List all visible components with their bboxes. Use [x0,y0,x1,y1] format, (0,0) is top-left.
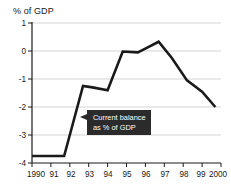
ytick-label-neg3: -3 [19,131,27,140]
xtick-label-95: 95 [122,170,132,179]
callout-line-2: as % of GDP [93,123,146,133]
x-axis-ticks: 1990 91 92 93 94 95 96 97 98 99 2000 [27,163,228,179]
xtick-label-97: 97 [160,170,170,179]
series-callout: Current balance as % of GDP [87,110,151,135]
y-axis-ticks: 1 0 -1 -2 -3 -4 [19,19,32,168]
callout-line-1: Current balance [93,113,146,123]
ytick-label-neg1: -1 [19,75,27,84]
ytick-label-0: 0 [21,47,26,56]
callout-arrow-icon [80,114,87,120]
xtick-label-96: 96 [141,170,151,179]
xtick-label-1990: 1990 [27,170,46,179]
xtick-label-93: 93 [85,170,95,179]
chart-container: % of GDP 1 0 -1 -2 -3 -4 [0,0,231,187]
xtick-label-98: 98 [179,170,189,179]
data-series-current-balance [32,42,215,156]
ytick-label-neg2: -2 [19,103,27,112]
ytick-label-neg4: -4 [19,159,27,168]
xtick-label-99: 99 [196,170,206,179]
line-chart-plot: 1 0 -1 -2 -3 -4 1990 91 92 93 94 95 [0,0,231,187]
xtick-label-2000: 2000 [209,170,228,179]
xtick-label-94: 94 [103,170,113,179]
ytick-label-1: 1 [21,19,26,28]
xtick-label-91: 91 [49,170,59,179]
xtick-label-92: 92 [66,170,76,179]
